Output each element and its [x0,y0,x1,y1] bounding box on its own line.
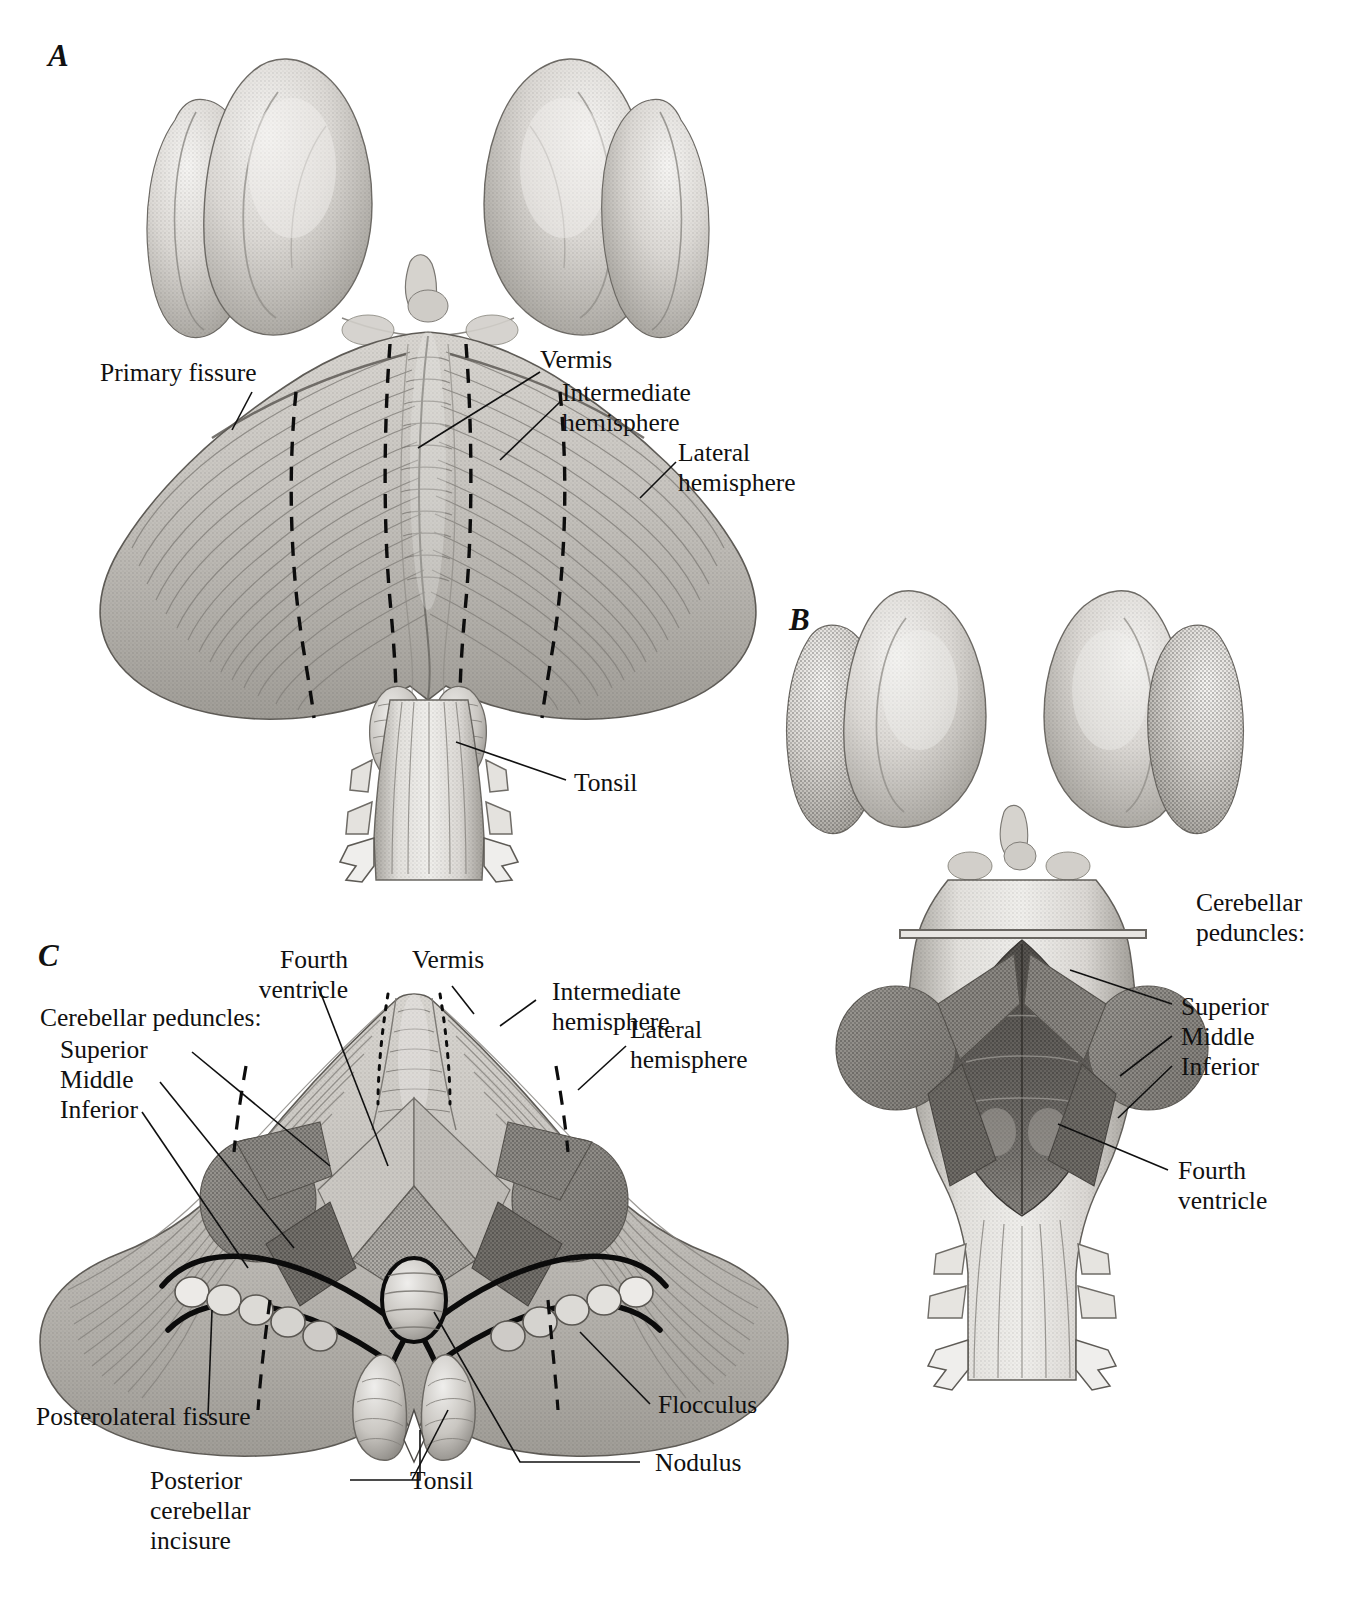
label-primary-fissure-a: Primary fissure [100,358,257,388]
label-inferior-c: Inferior [60,1095,138,1125]
label-inferior-b: Inferior [1181,1052,1259,1082]
panel-b-upper-lobes [787,591,1244,880]
label-fourth-ventricle-c: Fourth ventricle [188,945,348,1005]
panel-letter-a: A [48,38,69,74]
label-middle-c: Middle [60,1065,134,1095]
label-vermis-a: Vermis [540,345,612,375]
label-tonsil-a: Tonsil [574,768,637,798]
label-superior-b: Superior [1181,992,1269,1022]
label-vermis-c: Vermis [412,945,484,975]
panel-c-flocculus-left [175,1277,337,1351]
panel-b-brainstem [836,880,1208,1390]
panel-a-upper-lobes [147,59,709,345]
panel-a-tonsils [370,686,487,787]
label-intermediate-hemisphere-a: Intermediate hemisphere [562,378,691,438]
panel-a-vermis [401,330,455,700]
panel-a-artwork [100,59,756,882]
label-cerebellar-peduncles-c: Cerebellar peduncles: [40,1003,262,1033]
panel-a-medulla [340,700,518,882]
figure-plate: A B C Primary fissure Vermis Intermediat… [0,0,1356,1608]
label-posterior-cerebellar-incisure-c: Posterior cerebellar incisure [150,1466,251,1556]
label-flocculus-c: Flocculus [658,1390,757,1420]
panel-a-dashed-lines [291,344,565,718]
anatomical-artwork [0,0,1356,1608]
panel-letter-c: C [38,938,59,974]
label-lateral-hemisphere-a: Lateral hemisphere [678,438,796,498]
panel-b-leader-lines [1058,970,1172,1170]
panel-letter-b: B [789,602,810,638]
label-middle-b: Middle [1181,1022,1255,1052]
label-superior-c: Superior [60,1035,148,1065]
label-lateral-hemisphere-c: Lateral hemisphere [630,1015,748,1075]
panel-c-flocculus-right [491,1277,653,1351]
panel-c-nodulus [382,1258,446,1342]
label-tonsil-c: Tonsil [410,1466,473,1496]
label-nodulus-c: Nodulus [655,1448,741,1478]
panel-c-dashed-lines [234,1066,568,1410]
panel-b-artwork [787,591,1244,1390]
label-posterolateral-fissure-c: Posterolateral fissure [36,1402,251,1432]
panel-c-vermis [372,994,456,1130]
panel-c-dotted-lines [378,994,450,1104]
label-cerebellar-peduncles-b: Cerebellar peduncles: [1196,888,1305,948]
label-fourth-ventricle-b: Fourth ventricle [1178,1156,1267,1216]
panel-c-tonsils [353,1355,475,1460]
